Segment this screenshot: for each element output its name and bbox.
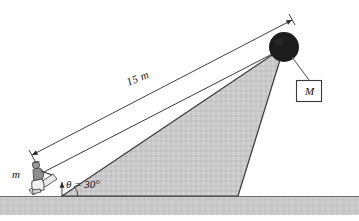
small-mass-label: m — [12, 168, 20, 180]
incline-triangle — [62, 47, 284, 196]
hanging-string — [292, 57, 309, 80]
pulley-ball — [269, 32, 299, 62]
angle-label: θ = 30° — [66, 178, 100, 190]
big-mass-label: M — [297, 80, 322, 101]
physics-diagram — [0, 0, 359, 221]
person-on-sled — [29, 161, 57, 195]
ground-strip — [0, 196, 359, 215]
